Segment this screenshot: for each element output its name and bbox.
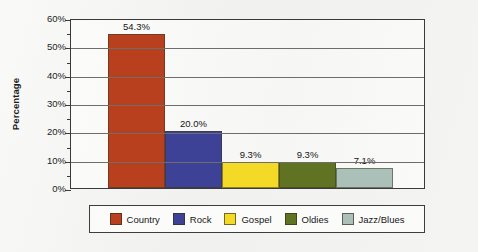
gridline — [71, 105, 424, 106]
gridline — [71, 162, 424, 163]
bar-rock — [165, 131, 222, 188]
y-axis-tick-label: 50% — [24, 42, 66, 52]
y-axis-tick-label: 20% — [24, 127, 66, 137]
axis-major-tick — [65, 20, 71, 21]
bar-oldies — [279, 162, 336, 188]
bar-country — [108, 34, 165, 188]
bar-series: 54.3%20.0%9.3%9.3%7.1% — [71, 20, 424, 188]
legend-swatch-icon — [173, 213, 185, 225]
legend-label: Country — [127, 214, 160, 225]
chart-page: Percentage 0%10%20%30%40%50%60% 54.3%20.… — [0, 0, 478, 252]
axis-minor-tick — [67, 63, 71, 64]
axis-minor-tick — [67, 148, 71, 149]
bar-value-label: 9.3% — [279, 149, 336, 160]
gridline — [71, 133, 424, 134]
plot-area: 54.3%20.0%9.3%9.3%7.1% — [70, 19, 425, 189]
y-axis-tick-label: 30% — [24, 99, 66, 109]
legend-item: Country — [110, 213, 160, 225]
legend-swatch-icon — [110, 213, 122, 225]
chart-legend: CountryRockGospelOldiesJazz/Blues — [89, 205, 425, 233]
legend-item: Rock — [173, 213, 212, 225]
legend-item: Gospel — [224, 213, 271, 225]
legend-swatch-icon — [285, 213, 297, 225]
y-axis-tick-label: 10% — [24, 156, 66, 166]
y-axis-tick-label: 0% — [24, 184, 66, 194]
axis-major-tick — [65, 105, 71, 106]
bar-gospel — [222, 162, 279, 188]
legend-item: Oldies — [285, 213, 329, 225]
y-axis-tick-label: 40% — [24, 71, 66, 81]
gridline — [71, 48, 424, 49]
axis-minor-tick — [67, 119, 71, 120]
legend-label: Jazz/Blues — [359, 214, 405, 225]
axis-minor-tick — [67, 91, 71, 92]
legend-swatch-icon — [224, 213, 236, 225]
axis-major-tick — [65, 190, 71, 191]
bar-value-label: 54.3% — [108, 21, 165, 32]
axis-minor-tick — [67, 34, 71, 35]
legend-swatch-icon — [342, 213, 354, 225]
legend-label: Rock — [190, 214, 212, 225]
bar-value-label: 20.0% — [165, 118, 222, 129]
axis-major-tick — [65, 162, 71, 163]
legend-label: Gospel — [241, 214, 271, 225]
axis-major-tick — [65, 48, 71, 49]
y-axis-tick-label: 60% — [24, 14, 66, 24]
y-axis-tick-labels: 0%10%20%30%40%50%60% — [24, 14, 66, 188]
bar-value-label: 7.1% — [336, 155, 393, 166]
bar-jazz-blues — [336, 168, 393, 188]
axis-major-tick — [65, 133, 71, 134]
axis-minor-tick — [67, 176, 71, 177]
legend-label: Oldies — [302, 214, 329, 225]
axis-major-tick — [65, 77, 71, 78]
legend-item: Jazz/Blues — [342, 213, 405, 225]
gridline — [71, 77, 424, 78]
bar-value-label: 9.3% — [222, 149, 279, 160]
